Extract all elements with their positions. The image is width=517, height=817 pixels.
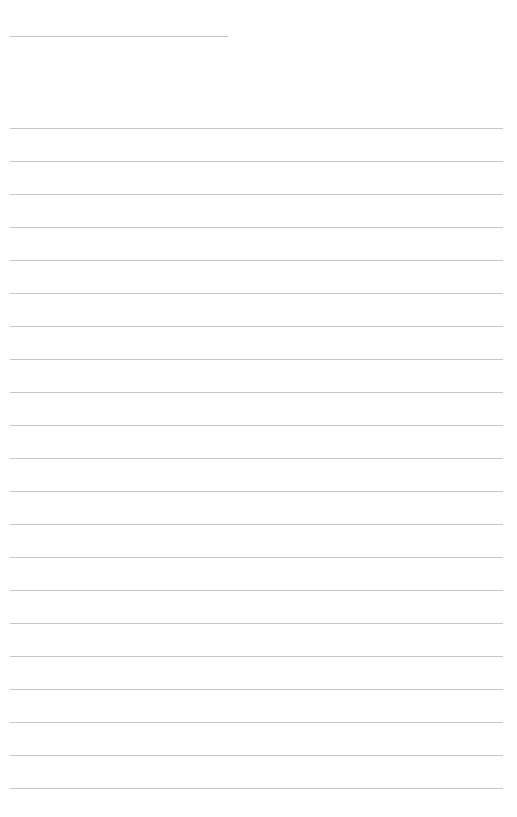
ruled-line — [10, 260, 503, 261]
ruled-line — [10, 623, 503, 624]
ruled-line — [10, 722, 503, 723]
ruled-line — [10, 425, 503, 426]
ruled-line — [10, 557, 503, 558]
title-line — [10, 36, 228, 37]
ruled-line — [10, 755, 503, 756]
ruled-line — [10, 656, 503, 657]
ruled-line — [10, 161, 503, 162]
ruled-line — [10, 293, 503, 294]
ruled-line — [10, 689, 503, 690]
ruled-line — [10, 590, 503, 591]
ruled-line — [10, 392, 503, 393]
ruled-line — [10, 788, 503, 789]
ruled-line — [10, 128, 503, 129]
ruled-line — [10, 524, 503, 525]
ruled-line — [10, 227, 503, 228]
ruled-line — [10, 194, 503, 195]
lined-page — [0, 0, 517, 817]
ruled-line — [10, 359, 503, 360]
ruled-line — [10, 458, 503, 459]
ruled-line — [10, 326, 503, 327]
ruled-line — [10, 491, 503, 492]
